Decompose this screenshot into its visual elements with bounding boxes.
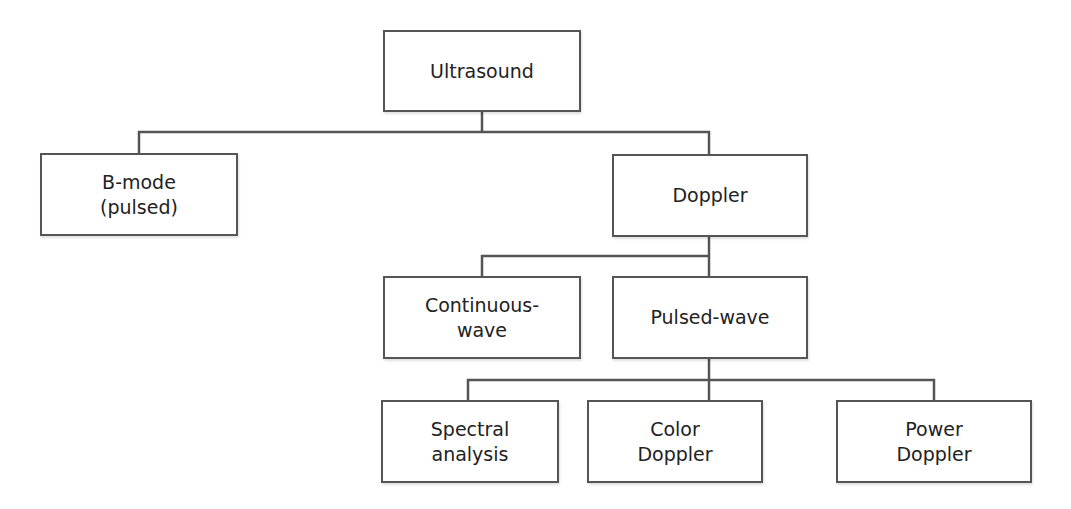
node-spectral-analysis: Spectral analysis: [381, 400, 559, 483]
node-color-doppler-label: Color Doppler: [637, 417, 712, 467]
node-power-doppler: Power Doppler: [836, 400, 1032, 483]
connector-pulsed-branch: [468, 380, 934, 400]
node-doppler-label: Doppler: [672, 183, 747, 208]
node-spectral-analysis-label: Spectral analysis: [431, 417, 509, 467]
ultrasound-modes-diagram: Ultrasound B-mode (pulsed) Doppler Conti…: [0, 0, 1071, 509]
node-pulsed-wave: Pulsed-wave: [612, 276, 808, 359]
node-power-doppler-label: Power Doppler: [896, 417, 971, 467]
node-ultrasound: Ultrasound: [383, 30, 581, 112]
node-color-doppler: Color Doppler: [587, 400, 763, 483]
node-pulsed-wave-label: Pulsed-wave: [650, 305, 769, 330]
node-doppler: Doppler: [612, 154, 808, 237]
node-continuous-wave-label: Continuous- wave: [425, 293, 539, 343]
connector-ultrasound-branch: [139, 132, 709, 154]
node-ultrasound-label: Ultrasound: [430, 59, 534, 84]
connector-doppler-branch: [482, 256, 709, 276]
node-continuous-wave: Continuous- wave: [383, 276, 581, 359]
node-b-mode-label: B-mode (pulsed): [100, 170, 178, 220]
node-b-mode: B-mode (pulsed): [40, 153, 238, 236]
